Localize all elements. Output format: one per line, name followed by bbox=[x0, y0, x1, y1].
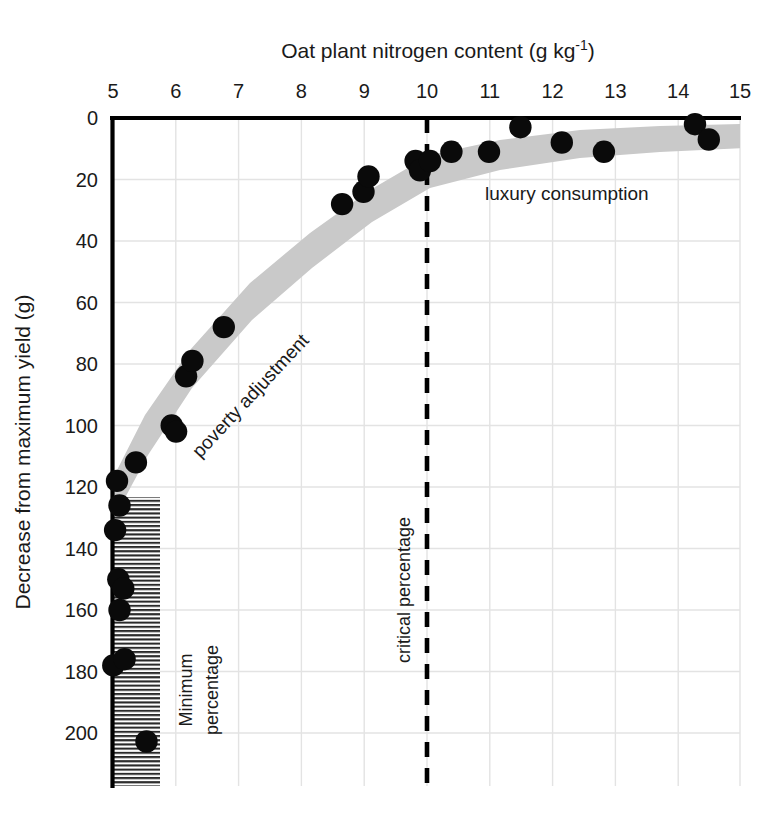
y-tick-label: 120 bbox=[65, 476, 98, 498]
data-point bbox=[106, 470, 128, 492]
y-tick-label: 160 bbox=[65, 599, 98, 621]
data-point bbox=[440, 141, 462, 163]
x-tick-label: 10 bbox=[416, 80, 438, 102]
x-tick-label: 8 bbox=[296, 80, 307, 102]
x-tick-label: 9 bbox=[359, 80, 370, 102]
minimum-percentage-label-line2: percentage bbox=[202, 645, 222, 735]
y-tick-label: 180 bbox=[65, 661, 98, 683]
y-tick-label: 60 bbox=[76, 292, 98, 314]
data-point bbox=[125, 451, 147, 473]
critical-percentage-label: critical percentage bbox=[394, 517, 414, 663]
data-point bbox=[165, 420, 187, 442]
x-tick-label: 11 bbox=[479, 80, 500, 102]
x-tick-label: 13 bbox=[604, 80, 626, 102]
x-tick-label: 12 bbox=[541, 80, 563, 102]
data-point bbox=[104, 519, 126, 541]
data-point bbox=[135, 730, 157, 752]
y-tick-label: 40 bbox=[76, 230, 98, 252]
data-point bbox=[331, 193, 353, 215]
y-tick-label: 100 bbox=[65, 415, 98, 437]
x-tick-label: 6 bbox=[170, 80, 181, 102]
nitrogen-yield-scatter-chart: Oat plant nitrogen content (g kg-1) 5 6 … bbox=[0, 0, 775, 814]
luxury-consumption-label: luxury consumption bbox=[485, 183, 649, 204]
data-point bbox=[108, 494, 130, 516]
data-point bbox=[213, 316, 235, 338]
x-tick-label: 5 bbox=[107, 80, 118, 102]
data-point bbox=[698, 128, 720, 150]
data-point bbox=[181, 350, 203, 372]
y-tick-label: 140 bbox=[65, 538, 98, 560]
x-axis-title: Oat plant nitrogen content (g kg-1) bbox=[281, 37, 595, 62]
y-tick-label: 0 bbox=[87, 107, 98, 129]
data-point bbox=[509, 116, 531, 138]
data-point bbox=[478, 141, 500, 163]
chart-figure: Oat plant nitrogen content (g kg-1) 5 6 … bbox=[0, 0, 775, 814]
y-tick-label: 20 bbox=[76, 169, 98, 191]
y-axis-title: Decrease from maximum yield (g) bbox=[11, 294, 34, 609]
data-point bbox=[113, 648, 135, 670]
data-point bbox=[419, 150, 441, 172]
data-point bbox=[112, 577, 134, 599]
data-point bbox=[108, 599, 130, 621]
x-tick-label: 14 bbox=[667, 80, 689, 102]
data-point bbox=[357, 165, 379, 187]
x-tick-label: 15 bbox=[729, 80, 751, 102]
minimum-percentage-label-line1: Minimum bbox=[176, 653, 196, 726]
data-point bbox=[593, 141, 615, 163]
data-point bbox=[551, 131, 573, 153]
y-tick-label: 200 bbox=[65, 722, 98, 744]
y-tick-label: 80 bbox=[76, 353, 98, 375]
x-tick-label: 7 bbox=[233, 80, 244, 102]
